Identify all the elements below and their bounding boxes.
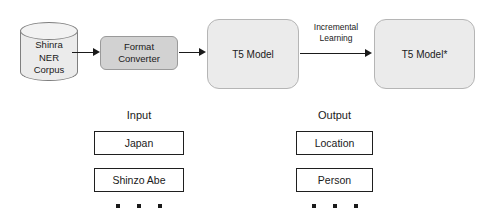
input-heading: Input [94, 109, 184, 121]
input-value-box: Japan [94, 131, 184, 155]
output-heading: Output [296, 109, 373, 121]
datastore-label-line-2: NER [20, 52, 78, 65]
ellipsis-dot-icon [333, 204, 337, 208]
format-converter-label-line-2: Converter [118, 53, 160, 66]
ellipsis-dot-icon [158, 204, 162, 208]
incremental-learning-label-line-1: Incremental [303, 22, 369, 33]
incremental-learning-label: Incremental Learning [303, 22, 369, 44]
arrow-head-icon [199, 48, 206, 56]
input-value-box: Shinzo Abe [94, 168, 184, 192]
output-value-box: Person [296, 168, 373, 192]
arrow-model-to-model-star [300, 53, 366, 54]
t5-model-star-label: T5 Model* [402, 49, 448, 60]
format-converter-box: Format Converter [100, 36, 178, 70]
input-value-label: Japan [125, 137, 154, 149]
ellipsis-dot-icon [312, 204, 316, 208]
ellipsis-dot-icon [116, 204, 120, 208]
t5-model-star-box: T5 Model* [374, 19, 475, 89]
t5-model-box: T5 Model [207, 19, 299, 89]
input-ellipsis [94, 202, 184, 210]
arrow-head-icon [93, 48, 100, 56]
arrow-converter-to-model [179, 52, 200, 53]
output-value-label: Person [318, 174, 351, 186]
datastore-label-line-1: Shinra [20, 39, 78, 52]
t5-model-label: T5 Model [232, 49, 274, 60]
arrow-head-icon [365, 49, 372, 57]
format-converter-label: Format Converter [118, 41, 160, 66]
incremental-learning-label-line-2: Learning [303, 33, 369, 44]
input-value-label: Shinzo Abe [112, 174, 165, 186]
datastore-label-line-3: Corpus [20, 64, 78, 77]
datastore-label: Shinra NER Corpus [20, 39, 78, 77]
output-value-box: Location [296, 131, 373, 155]
shinra-ner-corpus-datastore: Shinra NER Corpus [20, 22, 78, 88]
arrow-corpus-to-converter [72, 52, 94, 53]
output-value-label: Location [315, 137, 355, 149]
pipeline-diagram: Shinra NER Corpus Format Converter T5 Mo… [0, 0, 491, 222]
ellipsis-dot-icon [354, 204, 358, 208]
cylinder-top-ellipse [20, 22, 78, 40]
ellipsis-dot-icon [137, 204, 141, 208]
output-ellipsis [296, 202, 373, 210]
format-converter-label-line-1: Format [118, 41, 160, 54]
